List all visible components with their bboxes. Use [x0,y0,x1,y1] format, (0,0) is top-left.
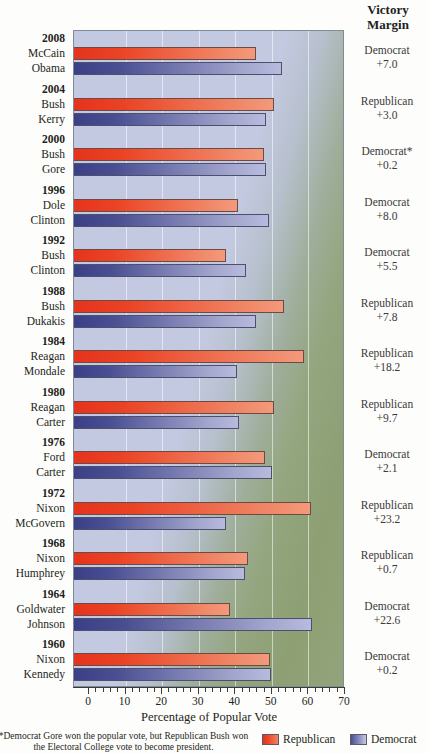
x-axis-tick [249,688,250,692]
victory-margin-party: Republican [346,549,428,562]
candidate-label-democrat: Carter [0,416,65,428]
bar-democrat [74,113,266,126]
x-axis-tick [227,688,228,692]
candidate-label-republican: Bush [0,148,65,160]
x-axis-tick [198,688,199,694]
x-axis-tick-label: 70 [329,695,359,707]
victory-margin-value: +7.8 [346,311,428,324]
candidate-label-republican: Nixon [0,653,65,665]
candidate-label-republican: Goldwater [0,603,65,615]
candidate-label-democrat: Dukakis [0,315,65,327]
election-year-label: 2000 [0,133,65,145]
victory-margin-value: +8.0 [346,210,428,223]
x-axis-tick [88,688,89,694]
bar-democrat [74,214,269,227]
election-year-label: 1984 [0,335,65,347]
victory-margin-value: +23.2 [346,513,428,526]
x-axis-tick-label: 60 [292,695,322,707]
x-axis-tick [110,688,111,692]
candidate-label-democrat: Kennedy [0,668,65,680]
bar-republican [74,653,270,666]
candidate-label-republican: Bush [0,249,65,261]
victory-margin-value: +18.2 [346,361,428,374]
x-axis-tick [329,688,330,692]
x-axis-tick-label: 10 [110,695,140,707]
election-year-label: 1980 [0,386,65,398]
victory-margin-party: Republican [346,398,428,411]
election-year-label: 1960 [0,638,65,650]
election-year-label: 1988 [0,285,65,297]
candidate-label-republican: Ford [0,451,65,463]
bar-republican [74,47,256,60]
bar-republican [74,603,230,616]
candidate-label-republican: Reagan [0,401,65,413]
election-year-label: 2008 [0,32,65,44]
victory-margin-value: +7.0 [346,58,428,71]
bar-democrat [74,416,239,429]
legend-swatch-democrat-icon [350,734,367,745]
legend-swatch-republican-icon [262,734,279,745]
victory-margin-header: Victory Margin [348,2,428,32]
bar-democrat [74,517,226,530]
election-year-label: 2004 [0,83,65,95]
legend-label-republican: Republican [283,733,335,745]
candidate-label-republican: Nixon [0,552,65,564]
candidate-label-republican: Reagan [0,350,65,362]
x-axis-tick [103,688,104,692]
x-axis-tick [190,688,191,692]
x-axis-tick [271,688,272,694]
victory-margin-header-line1: Victory [348,2,428,17]
x-axis-tick [293,688,294,692]
bar-republican [74,249,226,262]
candidate-label-democrat: Mondale [0,365,65,377]
victory-margin-party: Democrat [346,650,428,663]
candidate-label-democrat: Kerry [0,113,65,125]
victory-margin-value: +5.5 [346,260,428,273]
victory-margin-party: Republican [346,297,428,310]
election-year-label: 1996 [0,184,65,196]
x-axis-tick-label: 50 [256,695,286,707]
x-axis-tick-label: 40 [219,695,249,707]
x-axis-tick [168,688,169,692]
candidate-label-democrat: McGovern [0,517,65,529]
bar-democrat [74,365,237,378]
bar-republican [74,98,274,111]
bar-democrat [74,567,245,580]
bar-democrat [74,466,272,479]
chart-page: Victory Margin 2008McCainObama2004BushKe… [0,0,428,754]
victory-margin-value: +3.0 [346,109,428,122]
candidate-label-democrat: Gore [0,163,65,175]
victory-margin-party: Democrat [346,448,428,461]
bar-republican [74,148,264,161]
candidate-label-republican: Bush [0,300,65,312]
election-year-label: 1964 [0,588,65,600]
bar-republican [74,552,248,565]
victory-margin-header-line2: Margin [348,17,428,32]
election-year-label: 1976 [0,436,65,448]
victory-margin-value: +0.2 [346,664,428,677]
candidate-label-democrat: Clinton [0,264,65,276]
x-axis-tick [125,688,126,694]
bar-republican [74,451,265,464]
x-axis-tick [139,688,140,692]
x-axis-tick [322,688,323,692]
candidate-label-republican: Dole [0,199,65,211]
x-axis-tick [285,688,286,692]
candidate-label-democrat: Obama [0,62,65,74]
candidate-label-democrat: Johnson [0,618,65,630]
victory-margin-value: +0.2 [346,159,428,172]
x-axis-tick [315,688,316,692]
chart-legend: Republican Democrat [262,733,428,749]
x-axis-tick-label: 0 [73,695,103,707]
legend-item-democrat: Democrat [350,733,416,745]
candidate-label-democrat: Clinton [0,214,65,226]
victory-margin-value: +2.1 [346,462,428,475]
x-axis-tick [242,688,243,692]
x-axis-tick [176,688,177,692]
bar-democrat [74,668,271,681]
candidate-label-republican: Bush [0,98,65,110]
bar-democrat [74,618,312,631]
bar-democrat [74,264,246,277]
x-axis-tick [234,688,235,694]
legend-item-republican: Republican [262,733,335,745]
